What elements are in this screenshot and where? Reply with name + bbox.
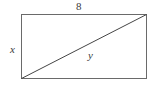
side-length-label-left: x <box>10 44 15 55</box>
figure-canvas <box>0 0 156 90</box>
geometry-figure: 8 x y <box>0 0 156 90</box>
diagonal-length-label: y <box>88 50 93 61</box>
side-length-label-top: 8 <box>76 1 82 12</box>
